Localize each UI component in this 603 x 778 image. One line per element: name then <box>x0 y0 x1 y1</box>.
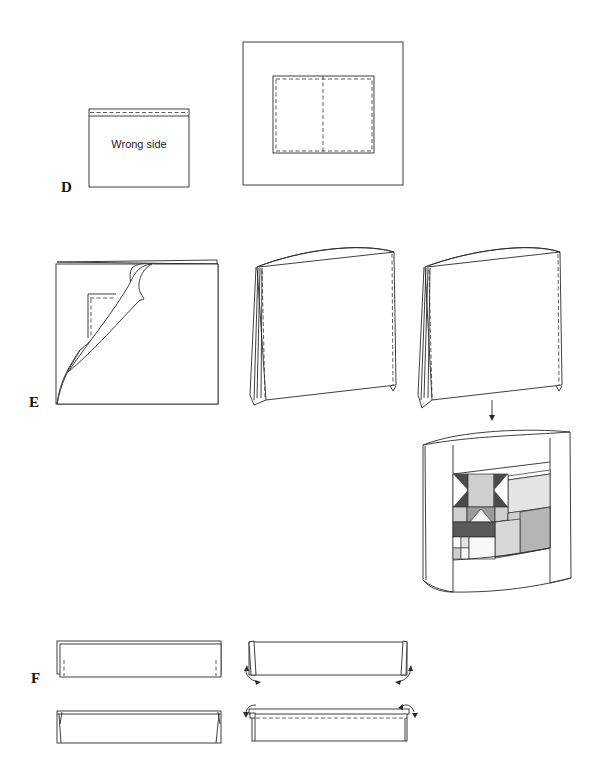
down-arrow-icon <box>489 400 495 421</box>
rotate-arrow-icon <box>243 712 249 718</box>
step-d-label: D <box>61 179 72 195</box>
step-e-group: E <box>29 248 571 592</box>
binding-strip-1 <box>57 641 221 677</box>
finished-quilt-pouch <box>423 430 571 592</box>
folded-tube-diagram-1 <box>250 248 396 405</box>
quilt-block <box>453 462 550 560</box>
folded-tube-diagram-2 <box>418 248 562 408</box>
step-f-group: F <box>31 641 418 743</box>
step-f-label: F <box>31 670 40 686</box>
binding-strip-3 <box>57 711 221 743</box>
wrong-side-panel: Wrong side <box>89 109 189 187</box>
rotate-arrow-icon <box>244 665 249 671</box>
wrong-side-label: Wrong side <box>111 138 166 150</box>
rotate-arrow-icon <box>408 665 413 671</box>
binding-strip-4 <box>243 704 418 741</box>
backing-square-with-pocket <box>243 42 403 185</box>
binding-strip-2 <box>244 641 413 685</box>
step-d-group: D Wrong side <box>61 42 403 195</box>
peeling-layer-diagram <box>56 260 218 404</box>
step-e-label: E <box>29 394 39 410</box>
